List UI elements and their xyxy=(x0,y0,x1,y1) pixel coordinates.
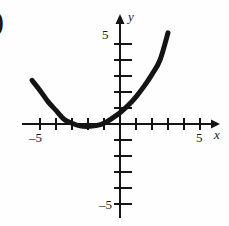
y-axis-arrowhead xyxy=(116,14,125,24)
y-axis-label-negative-five: –5 xyxy=(99,198,112,211)
y-axis-name: y xyxy=(128,10,134,23)
x-axis-name: x xyxy=(214,128,220,141)
y-axis-label-positive-five: 5 xyxy=(102,28,109,41)
graph-figure: ) xyxy=(0,0,229,226)
coordinate-plot xyxy=(0,0,229,226)
x-axis-label-negative-five: –5 xyxy=(29,131,42,144)
x-axis-label-positive-five: 5 xyxy=(196,131,203,144)
parabola-curve xyxy=(32,33,168,127)
